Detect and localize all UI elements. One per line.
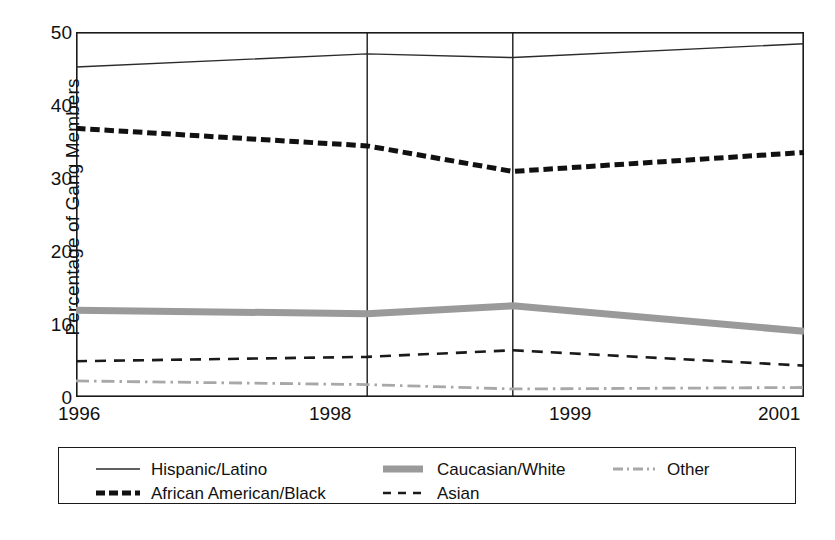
legend-item-caucasian-white[interactable]: Caucasian/White <box>381 459 566 479</box>
legend-label-other: Other <box>667 461 710 478</box>
plot-border <box>77 33 803 396</box>
y-tick-label-20: 20 <box>34 242 72 261</box>
y-tick-label-50: 50 <box>34 23 72 42</box>
legend-item-hispanic-latino[interactable]: Hispanic/Latino <box>95 459 267 479</box>
plot-frame <box>77 33 803 396</box>
x-tick-label-1996: 1996 <box>58 404 100 423</box>
thick-dashed-black-line-icon <box>95 486 141 500</box>
legend-item-african-american-black[interactable]: African American/Black <box>95 483 326 503</box>
legend-label-african-american-black: African American/Black <box>151 485 326 502</box>
thin-dashed-black-line-icon <box>381 486 427 500</box>
thick-solid-gray-line-icon <box>381 462 427 476</box>
series-line-african-american-black <box>76 128 804 171</box>
plot-area <box>76 32 804 397</box>
gray-dash-dot-line-icon <box>611 462 657 476</box>
x-tick-label-1999: 1999 <box>549 404 591 423</box>
legend-label-caucasian-white: Caucasian/White <box>437 461 566 478</box>
chart-figure: Percentage of Gang Members 50 40 30 20 1… <box>0 0 835 540</box>
legend-item-other[interactable]: Other <box>611 459 710 479</box>
series-line-asian <box>76 350 804 365</box>
vertical-gridlines <box>367 32 513 397</box>
x-tick-label-2001: 2001 <box>758 404 800 423</box>
legend-label-hispanic-latino: Hispanic/Latino <box>151 461 267 478</box>
chart-plot-svg <box>76 32 804 397</box>
thin-solid-black-line-icon <box>95 462 141 476</box>
y-tick-label-30: 30 <box>34 169 72 188</box>
chart-legend: Hispanic/Latino African American/Black C… <box>58 447 796 504</box>
y-axis-tick-labels: 50 40 30 20 10 0 <box>34 32 72 397</box>
y-tick-label-10: 10 <box>34 315 72 334</box>
series-line-caucasian-white <box>76 306 804 332</box>
y-tick-label-40: 40 <box>34 96 72 115</box>
legend-item-asian[interactable]: Asian <box>381 483 480 503</box>
legend-label-asian: Asian <box>437 485 480 502</box>
data-series-layer <box>76 44 804 389</box>
x-axis-tick-labels: 1996 1998 1999 2001 <box>0 404 835 434</box>
series-line-hispanic-latino <box>76 44 804 67</box>
series-line-other <box>76 381 804 389</box>
x-tick-label-1998: 1998 <box>309 404 351 423</box>
